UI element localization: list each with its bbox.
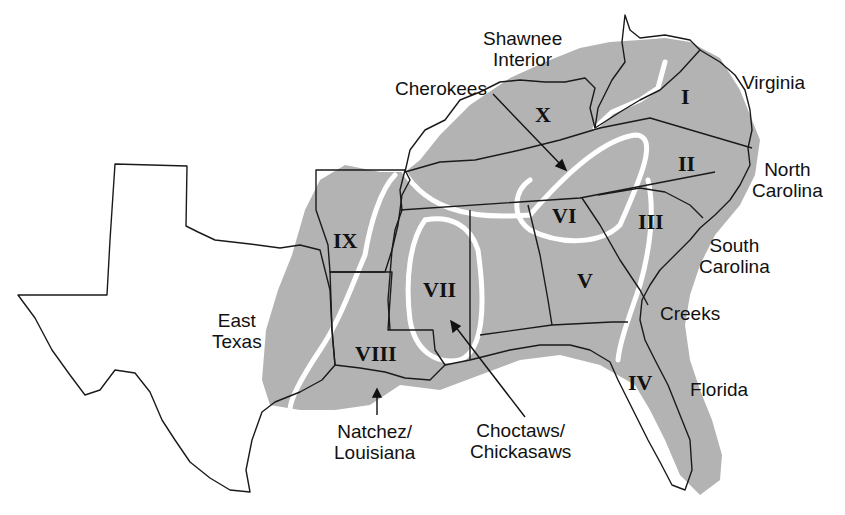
label-line: Carolina — [699, 256, 770, 277]
label-line: Shawnee — [483, 28, 562, 49]
label-line: Texas — [212, 331, 262, 352]
region-label-ix: IX — [333, 228, 357, 254]
label-line: Louisiana — [334, 442, 415, 463]
region-label-iii: III — [638, 209, 664, 235]
label-virginia: Virginia — [742, 72, 805, 93]
label-line: North — [752, 159, 823, 180]
label-cherokees: Cherokees — [395, 78, 487, 99]
label-north-carolina: North Carolina — [752, 159, 823, 201]
label-line: Carolina — [752, 180, 823, 201]
region-label-v: V — [577, 268, 593, 294]
label-choctaws-chickasaws: Choctaws/ Chickasaws — [470, 420, 571, 462]
region-label-vi: VI — [552, 203, 576, 229]
region-label-ii: II — [678, 151, 695, 177]
label-line: Choctaws/ — [470, 420, 571, 441]
region-label-x: X — [535, 102, 551, 128]
label-line: East — [212, 310, 262, 331]
label-shawnee-interior: Shawnee Interior — [483, 28, 562, 70]
label-line: South — [699, 235, 770, 256]
region-label-viii: VIII — [355, 341, 397, 367]
region-label-iv: IV — [628, 370, 652, 396]
label-line: Natchez/ — [334, 421, 415, 442]
label-natchez-louisiana: Natchez/ Louisiana — [334, 421, 415, 463]
label-east-texas: East Texas — [212, 310, 262, 352]
region-label-i: I — [681, 84, 690, 110]
label-florida: Florida — [690, 379, 748, 400]
region-label-vii: VII — [423, 277, 456, 303]
label-creeks: Creeks — [660, 303, 720, 324]
label-south-carolina: South Carolina — [699, 235, 770, 277]
label-line: Interior — [483, 49, 562, 70]
label-line: Chickasaws — [470, 441, 571, 462]
